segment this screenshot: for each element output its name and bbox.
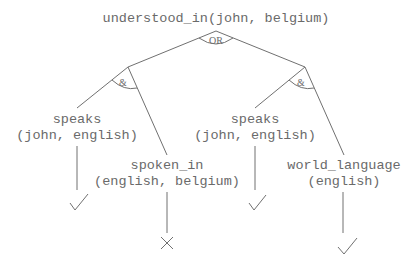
- check-icon: [338, 238, 357, 254]
- leaf-speaks-left-line2: (john, english): [16, 128, 138, 143]
- left-and-connective-label: &: [119, 77, 127, 88]
- edge-root-to-right-and: [216, 31, 305, 67]
- cross-icon: [161, 237, 173, 249]
- edge-root-to-left-and: [128, 31, 216, 67]
- leaf-speaks-right-line2: (john, english): [194, 128, 316, 143]
- leaf-world-language-line2: (english): [308, 174, 381, 189]
- leaf-speaks-right-line1: speaks: [231, 112, 280, 127]
- check-icon: [70, 194, 88, 210]
- and-or-tree-diagram: understood_in(john, belgium) OR & & spea…: [0, 0, 413, 268]
- right-and-connective-label: &: [297, 77, 305, 88]
- root-node-label: understood_in(john, belgium): [103, 11, 330, 26]
- or-connective-label: OR: [209, 35, 223, 46]
- leaf-spoken-in-line2: (english, belgium): [94, 174, 240, 189]
- leaf-spoken-in-line1: spoken_in: [131, 158, 204, 173]
- leaf-world-language-line1: world_language: [287, 158, 400, 173]
- leaf-speaks-left-line1: speaks: [53, 112, 102, 127]
- check-icon: [249, 195, 266, 210]
